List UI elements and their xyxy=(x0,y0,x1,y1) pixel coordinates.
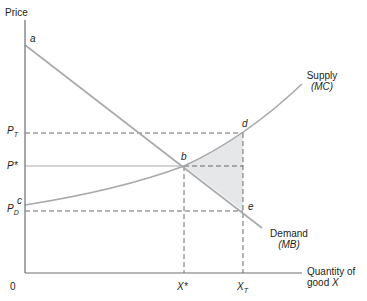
point-a-label: a xyxy=(30,33,36,44)
pt-label: PT xyxy=(7,125,18,137)
point-d-label: d xyxy=(242,118,248,129)
xt-label: XT xyxy=(237,281,248,293)
xstar-label: X* xyxy=(177,281,188,292)
pt-main: P xyxy=(7,125,14,136)
x-axis-title-var: X xyxy=(332,277,339,288)
origin-label: 0 xyxy=(10,281,16,292)
point-b-label: b xyxy=(181,151,187,162)
demand-label-line2: (MB) xyxy=(278,239,300,250)
pd-main: P xyxy=(7,203,14,214)
supply-label-line1: Supply xyxy=(307,70,338,81)
demand-label-line1: Demand xyxy=(270,228,308,239)
x-axis-title: Quantity of good X xyxy=(307,266,355,288)
y-axis-title: Price xyxy=(5,7,28,18)
x-axis-title-line1: Quantity of xyxy=(307,266,355,277)
supply-label-line2: (MC) xyxy=(311,81,333,92)
supply-label: Supply (MC) xyxy=(300,70,344,92)
point-c-label: c xyxy=(17,195,22,206)
deadweight-loss-region xyxy=(184,133,243,211)
x-axis-title-line2: good xyxy=(307,277,332,288)
supply-curve xyxy=(25,84,302,205)
point-e-label: e xyxy=(248,201,254,212)
pd-sub: D xyxy=(14,209,19,216)
pt-sub: T xyxy=(14,131,18,138)
pstar-label: P* xyxy=(7,160,18,171)
demand-label: Demand (MB) xyxy=(264,228,314,250)
demand-curve xyxy=(25,45,262,228)
xt-main: X xyxy=(237,281,244,292)
xt-sub: T xyxy=(244,287,248,294)
